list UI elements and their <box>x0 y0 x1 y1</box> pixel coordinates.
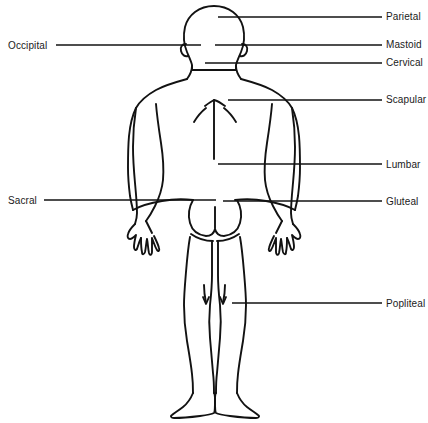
label-lumbar: Lumbar <box>386 159 421 171</box>
label-parietal: Parietal <box>386 11 421 23</box>
leader-lines-group <box>44 17 382 303</box>
label-sacral: Sacral <box>8 195 37 207</box>
torso-left-outline <box>128 79 187 210</box>
left-hand-fingers <box>141 236 159 255</box>
right-arm-outer-contour <box>291 108 295 224</box>
label-cervical: Cervical <box>386 57 423 69</box>
left-hand-outline <box>128 224 141 250</box>
body-figure-svg <box>0 0 428 423</box>
body-outline-group <box>128 6 301 418</box>
right-hand-outline <box>287 224 300 250</box>
right-leg-outer-outline <box>237 237 246 393</box>
neck-left-contour <box>187 66 192 79</box>
label-mastoid: Mastoid <box>386 39 422 51</box>
left-leg-outer-outline <box>184 237 193 393</box>
left-scapula-spine-hint <box>205 100 214 106</box>
right-wrist-to-palm <box>276 221 282 233</box>
left-foot-outline <box>171 393 215 418</box>
label-scapular: Scapular <box>386 94 426 106</box>
right-scapula-spine-hint <box>214 100 225 106</box>
anatomy-diagram: Occipital Sacral Parietal Mastoid Cervic… <box>0 0 428 423</box>
label-occipital: Occipital <box>8 40 47 52</box>
right-scapula-mark <box>224 108 236 122</box>
right-leg-inner-outline <box>216 242 221 393</box>
torso-right-outline <box>241 79 300 210</box>
left-arm-outer-contour <box>133 108 137 224</box>
left-scapula-mark <box>194 108 206 122</box>
neck-right-contour <box>236 66 241 79</box>
right-foot-outline <box>215 393 259 418</box>
left-wrist-to-palm <box>146 221 152 233</box>
left-leg-inner-outline <box>209 242 214 393</box>
right-hand-fingers <box>269 236 287 255</box>
head-outline <box>184 6 244 70</box>
hip-left-outline <box>133 199 193 210</box>
label-gluteal: Gluteal <box>386 196 418 208</box>
label-popliteal: Popliteal <box>386 298 425 310</box>
